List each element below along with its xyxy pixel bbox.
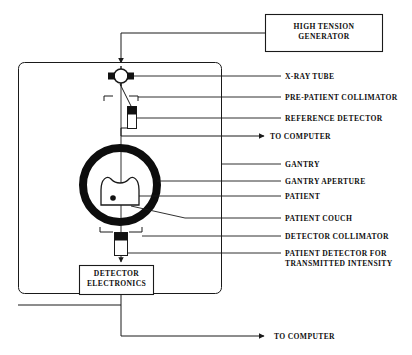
label-gantry: GANTRY	[285, 160, 320, 170]
label-to-computer-lower: TO COMPUTER	[274, 332, 335, 342]
reference-detector-cap	[128, 107, 137, 115]
x-ray-tube-cathode	[127, 73, 134, 80]
high-tension-generator-label: HIGH TENSION GENERATOR	[265, 22, 383, 42]
label-reference-detector: REFERENCE DETECTOR	[285, 114, 383, 124]
label-patient-detector: PATIENT DETECTOR FOR TRANSMITTED INTENSI…	[285, 249, 393, 269]
label-detector-collimator: DETECTOR COLLIMATOR	[285, 232, 389, 242]
ct-scanner-diagram: HIGH TENSION GENERATOR DETECTOR ELECTRON…	[0, 0, 412, 355]
detector-electronics-label: DETECTOR ELECTRONICS	[79, 269, 154, 289]
label-gantry-aperture: GANTRY APERTURE	[285, 177, 366, 187]
detector-electronics-output-left	[18, 294, 121, 305]
label-pre-patient-collimator: PRE-PATIENT COLLIMATOR	[285, 93, 398, 103]
x-ray-tube-symbol	[114, 69, 128, 83]
x-ray-tube-anode	[108, 73, 115, 80]
patient-detector-cap	[115, 233, 128, 241]
detector-electronics-output-right	[121, 305, 264, 336]
isocenter-dot	[110, 195, 116, 201]
generator-to-tube-wire	[121, 33, 265, 63]
label-patient: PATIENT	[285, 192, 320, 202]
label-to-computer-upper: TO COMPUTER	[270, 132, 331, 142]
label-patient-couch: PATIENT COUCH	[285, 214, 352, 224]
label-x-ray-tube: X-RAY TUBE	[285, 72, 334, 82]
